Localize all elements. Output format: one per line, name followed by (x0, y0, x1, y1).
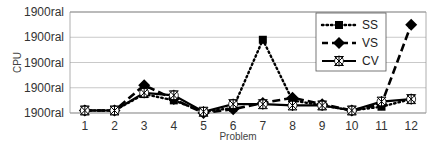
y-tick-label: 1900ral (24, 106, 64, 120)
x-tick-label: 2 (111, 119, 118, 133)
x-tick-label: 11 (375, 119, 388, 133)
legend-label: CV (362, 54, 379, 68)
legend: SSVSCV (316, 13, 386, 71)
x-tick-label: 9 (319, 119, 326, 133)
x-tick-label: 3 (141, 119, 148, 133)
x-tick-label: 7 (259, 119, 266, 133)
legend-label: VS (362, 36, 378, 50)
legend-label: SS (362, 18, 378, 32)
square-marker-icon (335, 21, 343, 29)
y-axis-title: CPU (12, 52, 23, 73)
diamond-marker-icon (405, 19, 417, 31)
y-tick-label: 1900ral (24, 30, 64, 44)
y-tick-label: 1900ral (24, 5, 64, 19)
x-tick-label: 1 (81, 119, 88, 133)
x-tick-label: 8 (289, 119, 296, 133)
x-tick-label: 10 (345, 119, 359, 133)
square-marker-icon (259, 36, 267, 44)
x-tick-label: 4 (170, 119, 177, 133)
x-axis-title: Problem (219, 131, 256, 142)
x-tick-label: 5 (200, 119, 207, 133)
y-tick-label: 1900ral (24, 56, 64, 70)
cpu-line-chart: 1900ral1900ral1900ral1900ral1900ral12345… (0, 0, 436, 150)
x-tick-label: 12 (404, 119, 418, 133)
chart-canvas: 1900ral1900ral1900ral1900ral1900ral12345… (0, 0, 436, 150)
y-tick-label: 1900ral (24, 81, 64, 95)
